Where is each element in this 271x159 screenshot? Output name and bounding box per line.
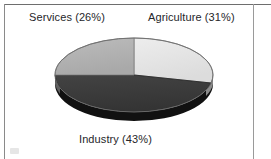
pie-top-face — [55, 38, 213, 112]
chart-plot-area: Services (26%) Agriculture (31%) Industr… — [0, 0, 271, 159]
scan-artifact — [10, 148, 19, 154]
pie-slice-services — [55, 38, 134, 75]
pie-chart-figure: Services (26%) Agriculture (31%) Industr… — [0, 0, 271, 159]
pie-label-agriculture: Agriculture (31%) — [148, 11, 235, 24]
pie-label-industry: Industry (43%) — [79, 133, 152, 146]
pie-label-services: Services (26%) — [29, 11, 105, 24]
pie-chart-graphic — [48, 22, 220, 127]
